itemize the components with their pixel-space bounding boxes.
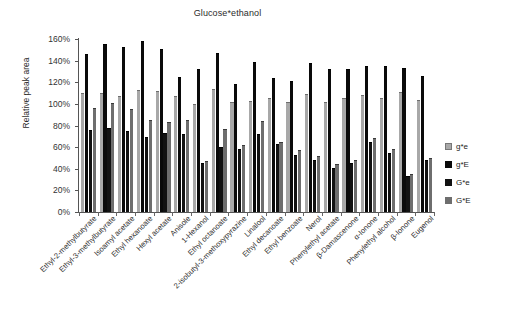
bar-g-e: [342, 98, 345, 212]
bar-g-E: [197, 69, 200, 212]
bar-G-E: [93, 108, 96, 212]
legend-swatch-icon: [445, 143, 452, 150]
bar-G-E: [186, 120, 189, 212]
bar-G-E: [354, 160, 357, 212]
bar-G-e: [145, 137, 148, 212]
bar-G-E: [429, 158, 432, 212]
legend-item[interactable]: g*E: [445, 157, 471, 171]
bar-G-e: [182, 134, 185, 212]
bar-group: [247, 39, 266, 212]
legend-label: g*e: [456, 142, 468, 151]
bar-group: [341, 39, 360, 212]
bar-G-e: [219, 147, 222, 212]
bar-G-e: [294, 155, 297, 212]
bar-G-e: [313, 160, 316, 212]
bar-g-E: [328, 69, 331, 212]
bar-G-e: [257, 134, 260, 212]
bar-group: [98, 39, 117, 212]
bar-g-e: [118, 96, 121, 212]
bar-G-e: [89, 130, 92, 212]
legend-swatch-icon: [445, 197, 452, 204]
bar-G-E: [317, 156, 320, 212]
bar-g-e: [193, 104, 196, 212]
legend-swatch-icon: [445, 161, 452, 168]
bar-group: [210, 39, 229, 212]
bar-g-E: [346, 69, 349, 212]
bar-G-e: [201, 163, 204, 212]
bar-G-E: [167, 122, 170, 212]
bar-G-e: [163, 133, 166, 212]
bar-G-E: [335, 164, 338, 212]
bar-g-e: [81, 93, 84, 212]
bar-G-e: [332, 168, 335, 212]
bar-g-e: [324, 102, 327, 212]
chart-legend: g*eg*EG*eG*E: [445, 139, 471, 211]
bar-g-E: [234, 84, 237, 212]
bar-G-E: [373, 138, 376, 212]
chart-container: Glucose*ethanol Relative peak area 0%20%…: [0, 0, 515, 334]
legend-label: G*E: [456, 196, 471, 205]
bar-G-e: [425, 160, 428, 212]
bar-group: [228, 39, 247, 212]
bar-g-e: [230, 102, 233, 212]
bar-g-e: [417, 100, 420, 212]
bar-G-E: [111, 103, 114, 212]
bar-group: [397, 39, 416, 212]
bar-G-E: [392, 149, 395, 212]
bar-g-E: [141, 41, 144, 212]
bar-g-E: [402, 68, 405, 212]
bar-g-E: [309, 63, 312, 212]
y-tick-label: 160%: [40, 34, 70, 44]
y-tick-label: 40%: [40, 164, 70, 174]
bar-G-E: [149, 120, 152, 212]
bar-G-E: [242, 145, 245, 212]
legend-label: G*e: [456, 178, 470, 187]
bar-g-e: [212, 89, 215, 212]
bar-group: [116, 39, 135, 212]
bar-G-e: [276, 144, 279, 212]
bar-g-e: [100, 93, 103, 212]
bar-group: [135, 39, 154, 212]
y-tick-label: 20%: [40, 185, 70, 195]
bar-g-E: [272, 78, 275, 212]
bar-G-E: [410, 174, 413, 212]
bar-group: [285, 39, 304, 212]
legend-item[interactable]: G*e: [445, 175, 471, 189]
bar-group: [266, 39, 285, 212]
bar-g-e: [305, 94, 308, 212]
bar-g-E: [421, 76, 424, 212]
bar-G-E: [205, 161, 208, 212]
bar-g-E: [253, 62, 256, 212]
bar-G-e: [107, 128, 110, 212]
bar-G-e: [126, 131, 129, 212]
bar-g-e: [286, 102, 289, 212]
x-axis-labels: Ethyl-2-methylbutyrateEthyl-3-methylbuty…: [0, 214, 515, 334]
bar-g-E: [178, 77, 181, 212]
y-tick-label: 140%: [40, 56, 70, 66]
bar-group: [415, 39, 434, 212]
bar-group: [191, 39, 210, 212]
x-axis-line: [78, 212, 435, 213]
bar-g-e: [156, 91, 159, 212]
y-tick-label: 60%: [40, 142, 70, 152]
bar-g-e: [268, 98, 271, 212]
bar-group: [378, 39, 397, 212]
bar-g-E: [103, 44, 106, 212]
bar-g-e: [399, 92, 402, 212]
bar-G-E: [261, 121, 264, 212]
bar-g-E: [384, 66, 387, 212]
y-tick-label: 120%: [40, 77, 70, 87]
bar-g-E: [85, 54, 88, 212]
legend-item[interactable]: G*E: [445, 193, 471, 207]
bar-G-E: [279, 142, 282, 212]
legend-item[interactable]: g*e: [445, 139, 471, 153]
bar-g-e: [361, 95, 364, 212]
bar-g-E: [365, 66, 368, 212]
legend-label: g*E: [456, 160, 469, 169]
chart-title: Glucose*ethanol: [0, 8, 455, 18]
bar-group: [359, 39, 378, 212]
bar-G-e: [406, 176, 409, 212]
bar-G-e: [350, 163, 353, 212]
y-axis-label: Relative peak area: [21, 23, 31, 163]
bar-g-E: [216, 53, 219, 212]
